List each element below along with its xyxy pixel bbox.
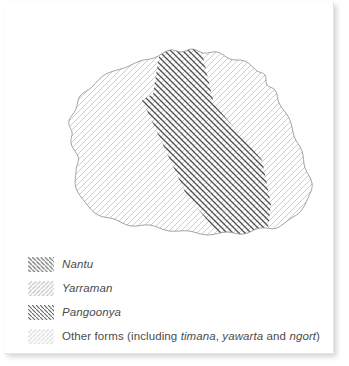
australia-map: [14, 8, 336, 246]
legend-label-nantu: Nantu: [62, 258, 93, 270]
legend-label-other-forms-term-1: timana: [181, 330, 216, 342]
legend-label-pangoonya: Pangoonya: [62, 306, 121, 318]
legend-label-other-forms-term-2: yawarta: [222, 330, 263, 342]
legend-swatch-nantu-icon: [28, 257, 54, 272]
legend-label-other-forms: Other forms (including timana, yawarta a…: [62, 330, 320, 342]
legend-item-nantu[interactable]: Nantu: [28, 252, 328, 276]
legend-label-other-forms-sep-2: and: [263, 330, 289, 342]
legend-swatch-yarraman-icon: [28, 281, 54, 296]
australia-map-svg: [14, 8, 336, 246]
legend-item-yarraman[interactable]: Yarraman: [28, 276, 328, 300]
map-legend: Nantu Yarraman: [28, 252, 328, 348]
legend-label-other-forms-suffix: ): [316, 330, 320, 342]
legend-label-yarraman: Yarraman: [62, 282, 112, 294]
legend-swatch-other-forms-icon: [28, 329, 54, 344]
legend-swatch-pangoonya-icon: [28, 305, 54, 320]
legend-item-pangoonya[interactable]: Pangoonya: [28, 300, 328, 324]
figure-card: Nantu Yarraman: [4, 2, 334, 354]
legend-item-other-forms[interactable]: Other forms (including timana, yawarta a…: [28, 324, 328, 348]
figure-root: Nantu Yarraman: [0, 0, 349, 366]
legend-label-other-forms-prefix: Other forms (including: [62, 330, 181, 342]
legend-label-other-forms-term-3: ngort: [289, 330, 316, 342]
mainland-group: [69, 44, 312, 236]
